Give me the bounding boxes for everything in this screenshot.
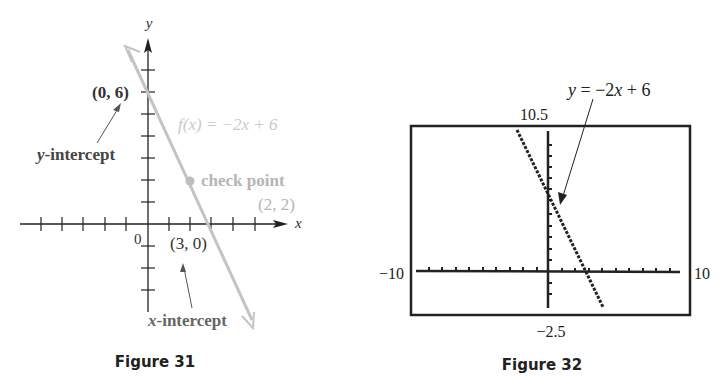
figure-32: y = −2x + 6 10.5 −2.5 −10 10 Figure 32 bbox=[379, 80, 710, 374]
y-intercept-arrow bbox=[97, 107, 119, 143]
origin-label: 0 bbox=[134, 231, 142, 247]
point-2-2-label: (2, 2) bbox=[258, 195, 295, 214]
point-3-0-label: (3, 0) bbox=[170, 234, 207, 253]
x-intercept-arrow bbox=[184, 268, 192, 308]
y-intercept-arrowhead-icon bbox=[113, 103, 121, 112]
function-label: f(x) = −2x + 6 bbox=[178, 115, 278, 134]
x-intercept-arrowhead-icon bbox=[180, 263, 186, 272]
figure-31: y x 0 (0, 6) (3, 0) f(x) = −2x + 6 check… bbox=[20, 15, 302, 371]
ymax-label: 10.5 bbox=[520, 106, 548, 123]
x-intercept-label: x-intercept bbox=[147, 311, 227, 330]
xmin-label: −10 bbox=[379, 265, 404, 282]
check-point-dot bbox=[186, 177, 195, 186]
calc-arrowhead-icon bbox=[558, 192, 567, 205]
calc-annotation-arrow bbox=[563, 99, 593, 196]
ymin-label: −2.5 bbox=[536, 323, 565, 340]
calculator-window bbox=[411, 126, 690, 315]
xmax-label: 10 bbox=[694, 265, 710, 282]
calc-function-line bbox=[517, 130, 603, 307]
point-0-6-label: (0, 6) bbox=[92, 83, 129, 102]
x-axis-label: x bbox=[294, 215, 302, 231]
y-axis-label: y bbox=[144, 15, 153, 31]
y-intercept-label: y-intercept bbox=[35, 145, 115, 164]
calc-equation-label: y = −2x + 6 bbox=[566, 80, 650, 100]
figures-canvas: y x 0 (0, 6) (3, 0) f(x) = −2x + 6 check… bbox=[0, 0, 723, 378]
figure-32-caption: Figure 32 bbox=[502, 356, 582, 374]
figure-31-caption: Figure 31 bbox=[115, 353, 195, 371]
check-point-label: check point bbox=[201, 171, 285, 190]
